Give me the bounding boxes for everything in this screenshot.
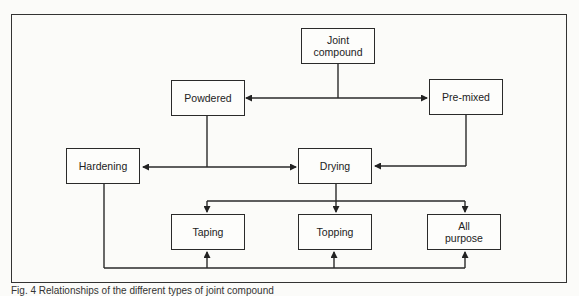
node-drying: Drying [298, 148, 372, 184]
node-label: Taping [193, 226, 224, 238]
node-all-purpose: All purpose [427, 214, 501, 250]
node-powdered: Powdered [171, 80, 245, 116]
figure-caption: Fig. 4 Relationships of the different ty… [11, 285, 274, 296]
node-label: Powdered [184, 92, 231, 104]
node-joint-compound: Joint compound [301, 28, 375, 64]
node-label: Topping [317, 226, 354, 238]
node-label: Pre-mixed [442, 91, 490, 103]
node-pre-mixed: Pre-mixed [429, 79, 503, 115]
node-label: All purpose [442, 220, 486, 244]
node-topping: Topping [298, 214, 372, 250]
node-label: Hardening [79, 160, 127, 172]
node-taping: Taping [171, 214, 245, 250]
node-label: Joint compound [313, 34, 363, 58]
node-label: Drying [320, 160, 350, 172]
node-hardening: Hardening [66, 148, 140, 184]
